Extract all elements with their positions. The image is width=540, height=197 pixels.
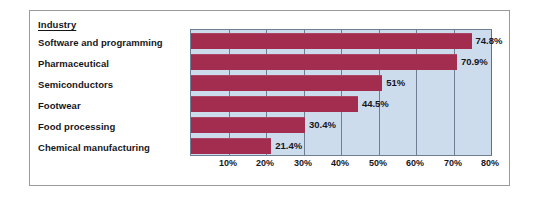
bar[interactable] <box>191 75 382 91</box>
bar[interactable] <box>191 138 271 154</box>
bar[interactable] <box>191 54 457 70</box>
bar[interactable] <box>191 33 472 49</box>
bar-row: 21.4% <box>191 135 491 156</box>
bar-row: 30.4% <box>191 114 491 135</box>
category-label: Software and programming <box>38 32 190 53</box>
chart-figure: Industry Software and programmingPharmac… <box>0 0 540 197</box>
category-label-column: Software and programmingPharmaceuticalSe… <box>38 32 188 158</box>
category-label: Semiconductors <box>38 74 190 95</box>
bar[interactable] <box>191 96 358 112</box>
x-tick-label: 60% <box>395 158 435 168</box>
bar-value-label: 51% <box>382 75 405 91</box>
bar-row: 70.9% <box>191 51 491 72</box>
bar-value-label: 21.4% <box>271 138 302 154</box>
bar-row: 74.8% <box>191 30 491 51</box>
bar-value-label: 70.9% <box>457 54 488 70</box>
category-label: Chemical manufacturing <box>38 137 190 158</box>
category-label: Pharmaceutical <box>38 53 190 74</box>
category-label: Food processing <box>38 116 190 137</box>
x-tick-label: 80% <box>470 158 510 168</box>
x-tick-label: 50% <box>358 158 398 168</box>
bar-value-label: 44.5% <box>358 96 389 112</box>
bar-row: 44.5% <box>191 93 491 114</box>
x-tick-label: 10% <box>208 158 248 168</box>
bars-layer: 74.8%70.9%51%44.5%30.4%21.4% <box>191 30 491 155</box>
x-tick-label: 30% <box>283 158 323 168</box>
x-axis-tick-labels: 10%20%30%40%50%60%70%80% <box>190 158 492 174</box>
category-label: Footwear <box>38 95 190 116</box>
bar-value-label: 74.8% <box>472 33 503 49</box>
plot-area: 74.8%70.9%51%44.5%30.4%21.4% <box>190 29 492 156</box>
bar-row: 51% <box>191 72 491 93</box>
industry-column-header: Industry <box>38 19 76 30</box>
bar-value-label: 30.4% <box>305 117 336 133</box>
x-tick-label: 20% <box>245 158 285 168</box>
bar[interactable] <box>191 117 305 133</box>
x-tick-label: 70% <box>433 158 473 168</box>
x-tick-label: 40% <box>320 158 360 168</box>
